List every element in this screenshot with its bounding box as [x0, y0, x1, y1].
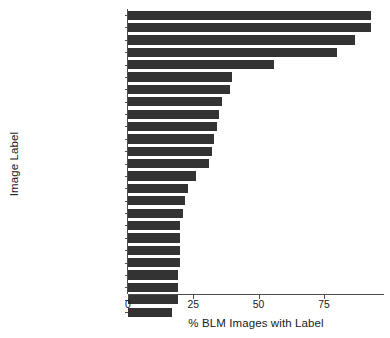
- x-axis-tick: [193, 295, 194, 299]
- bar: [128, 233, 180, 242]
- x-axis-tick: [128, 295, 129, 299]
- bar: [128, 60, 274, 69]
- bar: [128, 23, 371, 32]
- x-axis-tick-label: 25: [173, 299, 213, 310]
- bar-row: Street: [128, 219, 384, 231]
- bar-row: Town: [128, 120, 384, 132]
- x-axis-title: % BLM Images with Label: [128, 317, 384, 329]
- x-axis-tick-label: 75: [304, 299, 344, 310]
- plot-area: PersonHumanPeopleCrowdParadeClothingFace…: [128, 9, 384, 294]
- bar: [128, 159, 209, 168]
- bar-chart-figure: Image Label % BLM Images with Label Pers…: [0, 0, 390, 338]
- bar-row: Poster: [128, 158, 384, 170]
- x-axis-tick-label: 50: [239, 299, 279, 310]
- bar-row: Person: [128, 9, 384, 21]
- bar: [128, 171, 196, 180]
- bar-row: Text: [128, 195, 384, 207]
- bar-row: Clothing: [128, 71, 384, 83]
- bar-row: Crowd: [128, 46, 384, 58]
- bar-row: Building: [128, 108, 384, 120]
- bar: [128, 122, 217, 131]
- bar: [128, 246, 180, 255]
- bar: [128, 110, 219, 119]
- bar: [128, 184, 188, 193]
- bar: [128, 85, 230, 94]
- bar: [128, 72, 232, 81]
- bar: [128, 258, 180, 267]
- bar-row: Human: [128, 21, 384, 33]
- bar: [128, 221, 180, 230]
- bar-row: Road: [128, 145, 384, 157]
- x-axis-tick: [259, 295, 260, 299]
- y-axis-title: Image Label: [8, 94, 20, 234]
- bar-row: Transportation: [128, 170, 384, 182]
- x-axis-tick: [324, 295, 325, 299]
- bar-row: Urban: [128, 96, 384, 108]
- bar-row: Face: [128, 83, 384, 95]
- bar: [128, 97, 222, 106]
- x-axis-tick-label: 0: [108, 299, 148, 310]
- bar-row: Hat: [128, 207, 384, 219]
- bar: [128, 209, 183, 218]
- bar: [128, 196, 185, 205]
- bar: [128, 48, 337, 57]
- bar: [128, 147, 212, 156]
- bar-row: Military Uniform: [128, 244, 384, 256]
- bar-row: Military: [128, 232, 384, 244]
- bar: [128, 270, 178, 279]
- bar: [128, 134, 214, 143]
- bar-row: Paper: [128, 257, 384, 269]
- bar: [128, 11, 371, 20]
- bar-row: Vehicle: [128, 182, 384, 194]
- bar: [128, 283, 178, 292]
- bar: [128, 35, 355, 44]
- bar-row: Flyer: [128, 281, 384, 293]
- bar-row: Parade: [128, 59, 384, 71]
- bar-row: Portrait: [128, 269, 384, 281]
- bar-row: City: [128, 133, 384, 145]
- bar-row: People: [128, 34, 384, 46]
